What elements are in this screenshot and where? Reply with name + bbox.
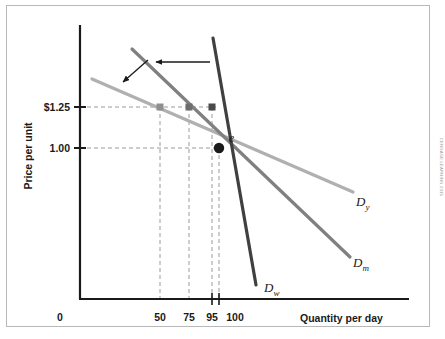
x-tick-label-0: 0 <box>50 311 70 323</box>
curve-label-dw-sub: w <box>273 288 279 298</box>
curve-label-dy: Dy <box>356 194 369 212</box>
y-tick-label-125: $1.25 <box>30 101 70 113</box>
x-axis-title: Quantity per day <box>300 312 383 324</box>
curve-label-dy-sub: y <box>365 202 369 212</box>
marker-dm-125 <box>186 104 193 111</box>
curve-label-dm: Dm <box>353 255 369 273</box>
equilibrium-dot <box>214 143 224 153</box>
x-tick-label-50: 50 <box>150 311 170 323</box>
curve-label-dw-base: D <box>264 280 273 295</box>
chart-canvas <box>0 0 445 339</box>
arrow-dm-to-dy <box>123 60 148 82</box>
marker-dy-125 <box>157 104 164 111</box>
x-tick-label-100: 100 <box>222 311 248 323</box>
y-tick-label-100: 1.00 <box>30 142 70 154</box>
curve-dm <box>132 49 350 257</box>
publisher-credit: CENGAGE LEARNING 2015 <box>439 138 444 196</box>
curve-label-dy-base: D <box>356 194 365 209</box>
curve-label-dm-sub: m <box>362 263 369 273</box>
curve-label-dm-base: D <box>353 255 362 270</box>
guide-lines <box>80 107 219 299</box>
marker-dw-125 <box>209 104 216 111</box>
x-tick-label-95: 95 <box>202 311 222 323</box>
equilibrium-label: e <box>229 132 234 144</box>
x-tick-label-75: 75 <box>179 311 199 323</box>
demand-elasticity-figure: Price per unit Quantity per day $1.25 1.… <box>0 0 445 339</box>
curve-label-dw: Dw <box>264 280 279 298</box>
y-axis-title: Price per unit <box>22 106 34 206</box>
